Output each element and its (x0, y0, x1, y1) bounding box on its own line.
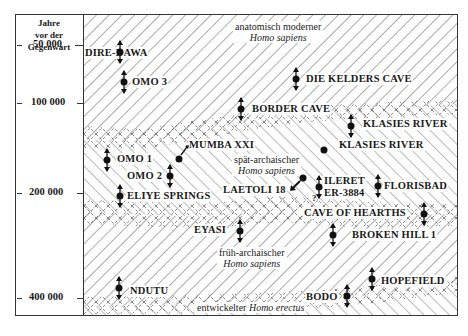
site-bodo: BODO (305, 291, 339, 303)
site-dire-dawa: DIRE-DAWA (84, 47, 148, 59)
site-hopefield: HOPEFIELD (380, 275, 446, 287)
group-label-erectus: entwickelter Homo erectus (195, 302, 306, 313)
group-label-line: spät-archaischer (234, 154, 299, 165)
site-florisbad: FLORISBAD (383, 180, 448, 192)
group-label-line: anatomisch moderner (235, 21, 321, 32)
group-label-early-archaic: früh-archaischer Homo sapiens (217, 247, 287, 269)
site-border-cave: BORDER CAVE (251, 103, 331, 115)
group-label-line: früh-archaischer (219, 247, 285, 258)
uncertain-question-mark: ? (311, 192, 318, 204)
site-eliye-springs: ELIYE SPRINGS (126, 190, 211, 202)
site-eyasi: EYASI (193, 224, 227, 236)
group-label-species: Homo sapiens (238, 165, 295, 176)
site-ileret: ILERET (323, 175, 366, 187)
group-label-late-archaic: spät-archaischer Homo sapiens (232, 154, 301, 176)
group-label-species: Homo sapiens (250, 32, 307, 43)
site-omo-3: OMO 3 (131, 76, 168, 88)
site-ndutu: NDUTU (129, 285, 169, 297)
group-label-species: Homo sapiens (223, 258, 280, 269)
site-klasies-river-1: KLASIES RIVER (362, 118, 449, 130)
site-cave-of-hearths: CAVE OF HEARTHS (303, 207, 407, 219)
site-mumba-xxi: MUMBA XXI (188, 139, 255, 151)
site-omo-2: OMO 2 (126, 170, 163, 182)
site-er-3884: ER-3884 (323, 187, 365, 199)
site-omo-1: OMO 1 (116, 153, 153, 165)
group-label-line: entwickelter (197, 302, 246, 313)
group-label-modern-sapiens: anatomisch moderner Homo sapiens (233, 21, 323, 43)
site-broken-hill-1: BROKEN HILL 1 (351, 229, 437, 241)
group-label-species: Homo erectus (249, 302, 304, 313)
site-laetoli-18: LAETOLI 18 (222, 184, 287, 196)
site-die-kelders-cave: DIE KELDERS CAVE (305, 73, 413, 85)
site-klasies-river-2: KLASIES RIVER (338, 139, 425, 151)
